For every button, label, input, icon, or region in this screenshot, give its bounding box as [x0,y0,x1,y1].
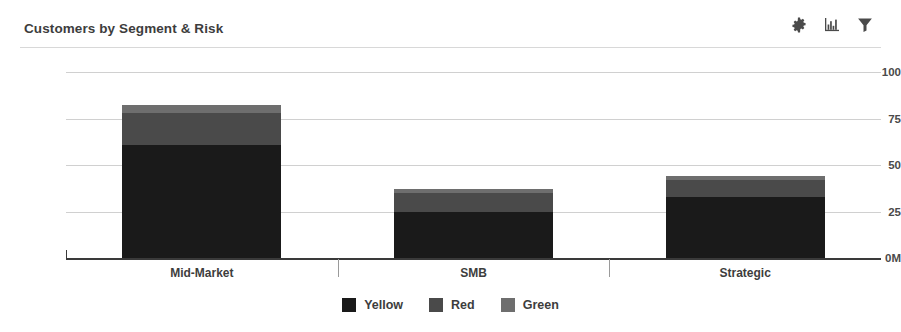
y-axis-tick-label: 100 [845,66,901,78]
bar-segment-red[interactable] [122,113,281,145]
bar-segment-yellow[interactable] [122,145,281,258]
gridline [66,72,881,73]
bar-segment-red[interactable] [394,193,553,212]
bar-segment-green[interactable] [122,105,281,112]
bar-segment-yellow[interactable] [394,212,553,259]
legend-swatch-icon [342,298,356,312]
bar-segment-red[interactable] [666,180,825,197]
legend-item-green[interactable]: Green [501,298,559,312]
bar-stack[interactable] [666,176,825,258]
bar-stack[interactable] [394,189,553,258]
legend-label: Yellow [364,298,403,312]
chart-widget: Customers by Segment & Risk [0,0,901,332]
legend-swatch-icon [429,298,443,312]
x-axis-baseline [66,258,881,260]
legend-item-yellow[interactable]: Yellow [342,298,403,312]
x-axis-tick-label: Strategic [609,266,881,280]
y-axis-tick-label: 50 [845,159,901,171]
legend-item-red[interactable]: Red [429,298,475,312]
bar-segment-yellow[interactable] [666,197,825,258]
legend-swatch-icon [501,298,515,312]
bar-stack[interactable] [122,105,281,258]
chart-plot-area: 0M255075100Mid-MarketSMBStrategic [0,0,901,332]
y-axis-tick-label: 75 [845,113,901,125]
x-axis-tick-label: SMB [338,266,610,280]
y-axis-tick-label: 25 [845,206,901,218]
legend-label: Red [451,298,475,312]
bar-segment-green[interactable] [666,176,825,180]
legend-label: Green [523,298,559,312]
y-axis-origin-tick [66,250,67,259]
bar-segment-green[interactable] [394,189,553,193]
chart-legend: YellowRedGreen [0,298,901,312]
x-axis-tick-label: Mid-Market [66,266,338,280]
